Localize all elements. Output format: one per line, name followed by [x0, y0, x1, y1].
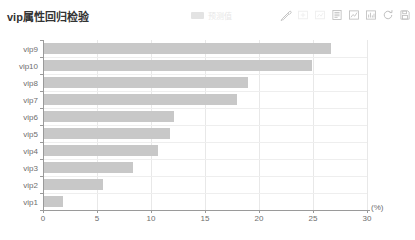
page-title: vip属性回归检验 [7, 8, 89, 24]
x-axis-tick [313, 210, 314, 213]
y-axis-tick-label: vip5 [23, 129, 38, 138]
y-axis-tick-label: vip9 [23, 44, 38, 53]
y-axis-tick [40, 193, 43, 194]
row-separator [43, 159, 367, 160]
bar[interactable] [44, 43, 331, 54]
bar[interactable] [44, 145, 158, 156]
row-separator [43, 74, 367, 75]
y-axis-line [43, 40, 44, 211]
y-axis-tick-label: vip8 [23, 78, 38, 87]
bar[interactable] [44, 179, 103, 190]
y-axis-tick [40, 40, 43, 41]
row-separator [43, 108, 367, 109]
y-axis-tick-label: vip3 [23, 163, 38, 172]
x-axis-tick [205, 210, 206, 213]
row-separator [43, 57, 367, 58]
plot-area [43, 40, 367, 210]
bar[interactable] [44, 196, 63, 207]
x-axis-tick [151, 210, 152, 213]
y-axis-tick [40, 142, 43, 143]
x-axis-tick [367, 210, 368, 213]
bar[interactable] [44, 77, 248, 88]
row-separator [43, 176, 367, 177]
x-axis-tick-label: 20 [255, 214, 264, 223]
x-axis-line [43, 210, 370, 211]
x-axis-tick-label: 25 [309, 214, 318, 223]
zoom-restore-icon[interactable] [297, 9, 309, 21]
y-axis-tick [40, 159, 43, 160]
bar[interactable] [44, 94, 237, 105]
legend-item-label: 预测值 [208, 10, 232, 21]
bar-chart-icon[interactable] [365, 9, 377, 21]
magic-type-icon[interactable] [314, 9, 326, 21]
row-separator [43, 193, 367, 194]
y-axis-tick [40, 176, 43, 177]
line-chart-icon[interactable] [348, 9, 360, 21]
restore-icon[interactable] [382, 9, 394, 21]
chart-legend[interactable]: 预测值 [191, 10, 232, 21]
y-axis-tick-label: vip10 [19, 61, 38, 70]
x-axis-tick-label: 15 [201, 214, 210, 223]
y-axis-tick-label: vip7 [23, 95, 38, 104]
x-axis-tick [43, 210, 44, 213]
x-axis-tick [259, 210, 260, 213]
brush-icon[interactable] [280, 9, 292, 21]
data-view-icon[interactable] [331, 9, 343, 21]
y-axis-tick [40, 108, 43, 109]
chart-container: vip属性回归检验 预测值 [0, 0, 415, 240]
x-axis-tick-label: 0 [41, 214, 45, 223]
y-axis-tick [40, 125, 43, 126]
x-axis-tick [97, 210, 98, 213]
y-axis-tick-label: vip4 [23, 146, 38, 155]
y-axis-tick [40, 57, 43, 58]
y-axis-tick-label: vip6 [23, 112, 38, 121]
y-axis-tick-label: vip1 [23, 197, 38, 206]
y-axis-tick [40, 210, 43, 211]
bar[interactable] [44, 111, 174, 122]
save-image-icon[interactable] [399, 9, 411, 21]
bar[interactable] [44, 162, 133, 173]
row-separator [43, 91, 367, 92]
y-axis-tick [40, 74, 43, 75]
chart-toolbox[interactable] [280, 9, 411, 21]
x-axis-tick-label: 5 [95, 214, 99, 223]
gridline-x [367, 40, 368, 210]
x-axis-unit-label: (%) [371, 203, 383, 212]
x-axis-tick-label: 30 [363, 214, 372, 223]
bar[interactable] [44, 128, 170, 139]
row-separator [43, 142, 367, 143]
row-separator [43, 125, 367, 126]
legend-marker-icon [191, 12, 204, 19]
bar[interactable] [44, 60, 312, 71]
y-axis-tick-label: vip2 [23, 180, 38, 189]
x-axis-tick-label: 10 [147, 214, 156, 223]
y-axis-tick [40, 91, 43, 92]
